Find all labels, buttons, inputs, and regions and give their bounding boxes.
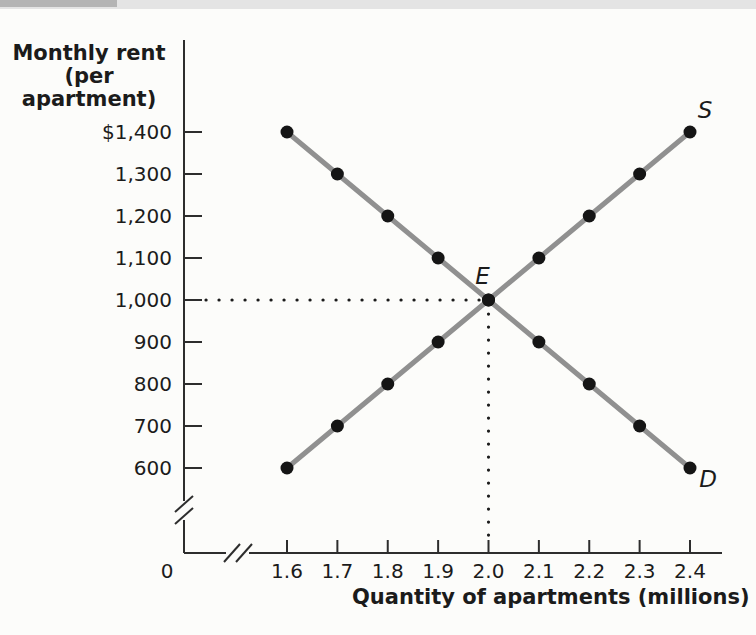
supply-point (633, 168, 646, 181)
demand-point (381, 210, 394, 223)
demand-point (633, 420, 646, 433)
x-tick-label: 2.4 (674, 559, 706, 583)
x-tick-label: 2.0 (473, 559, 505, 583)
x-axis-title: Quantity of apartments (millions) (352, 586, 704, 609)
x-tick-label: 2.3 (624, 559, 656, 583)
supply-point (684, 126, 697, 139)
chart-canvas: $1,4001,3001,2001,1001,0009008007006001.… (0, 0, 756, 635)
x-tick-label: 1.6 (271, 559, 303, 583)
demand-point (482, 294, 495, 307)
y-tick-label: 900 (134, 330, 172, 354)
demand-point (432, 252, 445, 265)
supply-point (583, 210, 596, 223)
y-tick-label: 1,100 (115, 246, 172, 270)
equilibrium-label: E (475, 263, 490, 289)
supply-curve-label: S (698, 97, 713, 123)
y-tick-label: 800 (134, 372, 172, 396)
demand-curve-label: D (699, 466, 717, 492)
demand-point (281, 126, 294, 139)
supply-demand-figure: Monthly rent (per apartment) $1,4001,300… (0, 0, 756, 635)
y-tick-label: 1,000 (115, 288, 172, 312)
y-tick-label: 600 (134, 456, 172, 480)
demand-point (684, 462, 697, 475)
demand-point (331, 168, 344, 181)
demand-point (532, 336, 545, 349)
y-tick-label: $1,400 (102, 120, 172, 144)
x-tick-label: 2.2 (573, 559, 605, 583)
supply-point (281, 462, 294, 475)
supply-point (532, 252, 545, 265)
y-tick-label: 700 (134, 414, 172, 438)
x-tick-label: 1.9 (422, 559, 454, 583)
supply-point (381, 378, 394, 391)
x-tick-label: 1.8 (372, 559, 404, 583)
supply-point (432, 336, 445, 349)
origin-label: 0 (161, 559, 174, 583)
demand-point (583, 378, 596, 391)
supply-point (331, 420, 344, 433)
y-tick-label: 1,300 (115, 162, 172, 186)
y-tick-label: 1,200 (115, 204, 172, 228)
x-tick-label: 2.1 (523, 559, 555, 583)
x-tick-label: 1.7 (321, 559, 353, 583)
